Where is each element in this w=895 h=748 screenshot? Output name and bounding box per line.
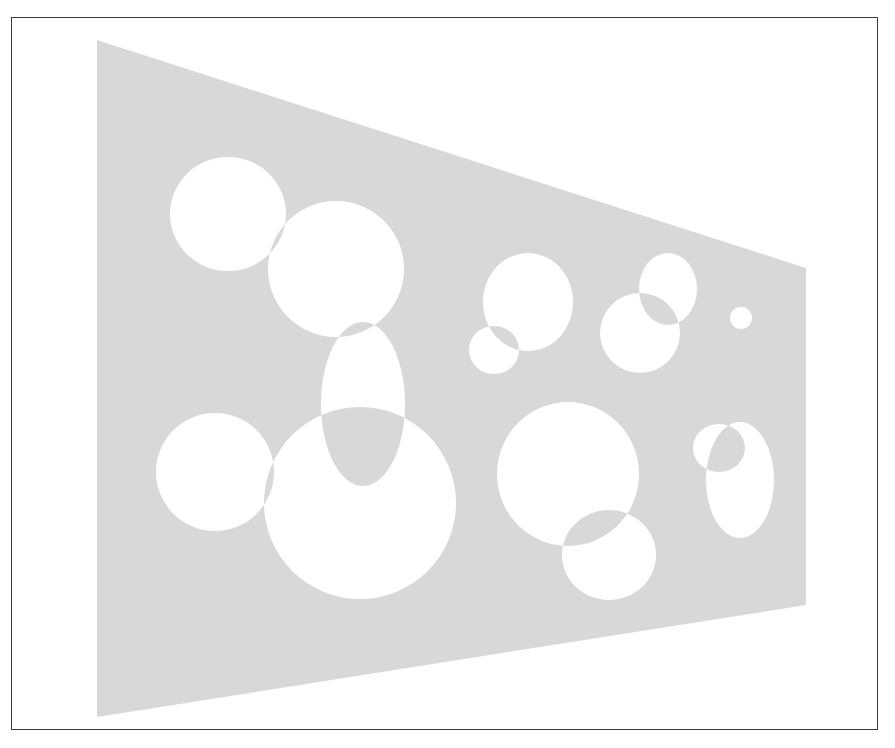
gray-trapezoid — [97, 40, 806, 717]
figure-canvas — [0, 0, 895, 748]
